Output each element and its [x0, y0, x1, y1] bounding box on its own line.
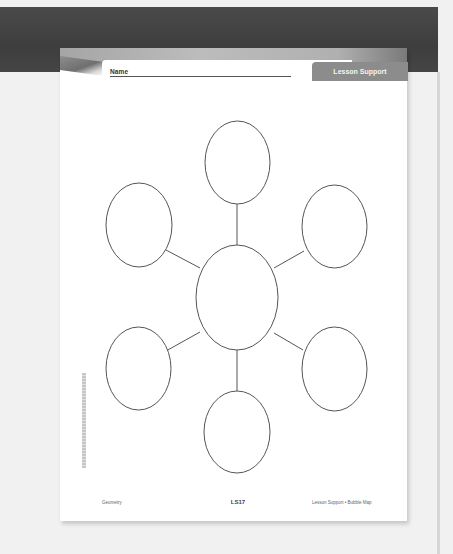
footer-page-code: LS17	[230, 499, 246, 505]
bubble-top	[205, 121, 270, 204]
bubble-lower-right	[302, 327, 367, 411]
connector-upper-left	[166, 250, 200, 268]
footer-subject: Geometry	[102, 500, 122, 505]
bubble-bottom	[204, 391, 270, 473]
bubble-upper-right	[302, 185, 367, 268]
connector-upper-right	[274, 251, 304, 268]
bubble-upper-left	[106, 183, 172, 267]
bubble-lower-left	[106, 327, 171, 410]
bubble-map	[60, 48, 407, 521]
connector-lower-left	[166, 332, 200, 351]
scrollbar-strip	[437, 72, 440, 554]
footer-title: Lesson Support • Bubble Map	[312, 500, 372, 505]
worksheet-page: Name Lesson Support Geometry LS17 Lesson…	[60, 48, 407, 521]
bubble-center	[196, 245, 278, 350]
connector-lower-right	[274, 333, 303, 350]
